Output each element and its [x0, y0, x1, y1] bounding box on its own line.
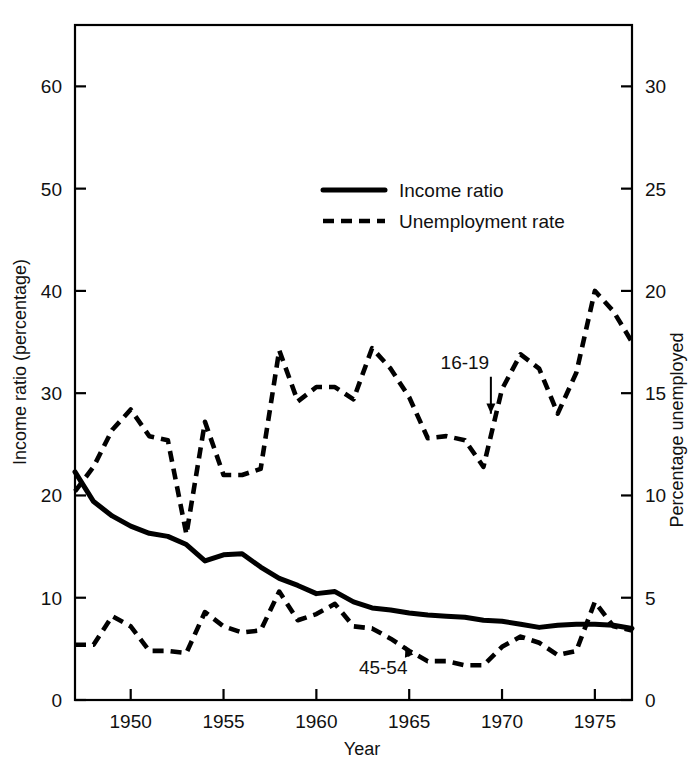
series-line-0 [75, 472, 632, 628]
left-tick-label: 40 [41, 281, 62, 302]
x-tick-label: 1950 [110, 711, 152, 732]
annotation-arrowhead-0 [486, 404, 495, 414]
x-tick-label: 1975 [574, 711, 616, 732]
x-tick-label: 1955 [202, 711, 244, 732]
annotation-label-1: 45-54 [359, 657, 408, 678]
right-tick-label: 20 [645, 281, 666, 302]
right-axis-ticks: 051015202530 [621, 76, 666, 711]
plot-frame [75, 25, 632, 700]
left-axis-ticks: 0102030405060 [41, 76, 86, 711]
legend-label-1: Unemployment rate [399, 211, 565, 232]
left-tick-label: 30 [41, 383, 62, 404]
annotation-layer: 16-1945-54 [359, 352, 495, 679]
x-axis-title: Year [344, 739, 380, 759]
left-tick-label: 0 [51, 690, 62, 711]
y-axis-left-title: Income ratio (percentage) [10, 259, 30, 465]
data-series-layer [75, 291, 632, 665]
x-tick-label: 1965 [388, 711, 430, 732]
series-line-1 [75, 291, 632, 534]
chart-legend: Income ratioUnemployment rate [323, 180, 565, 232]
left-tick-label: 60 [41, 76, 62, 97]
x-tick-label: 1960 [295, 711, 337, 732]
right-tick-label: 5 [645, 588, 656, 609]
annotation-label-0: 16-19 [441, 352, 490, 373]
right-tick-label: 25 [645, 179, 666, 200]
income-ratio-unemployment-chart: 0102030405060 051015202530 1950195519601… [0, 0, 700, 765]
right-tick-label: 10 [645, 485, 666, 506]
bottom-axis-ticks: 195019551960196519701975 [110, 689, 616, 732]
x-tick-label: 1970 [481, 711, 523, 732]
right-tick-label: 30 [645, 76, 666, 97]
y-axis-right-title: Percentage unemployed [667, 332, 687, 527]
chart-figure: 0102030405060 051015202530 1950195519601… [0, 0, 700, 765]
right-tick-label: 15 [645, 383, 666, 404]
legend-label-0: Income ratio [399, 180, 504, 201]
right-tick-label: 0 [645, 690, 656, 711]
left-tick-label: 10 [41, 588, 62, 609]
left-tick-label: 20 [41, 485, 62, 506]
left-tick-label: 50 [41, 179, 62, 200]
